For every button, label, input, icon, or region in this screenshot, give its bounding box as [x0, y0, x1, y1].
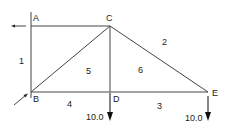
member-label-5: 5	[86, 66, 91, 76]
node-label-b: B	[33, 94, 39, 104]
node-label-d: D	[113, 94, 120, 104]
reaction-arrow-b-icon	[14, 94, 28, 106]
member-label-4: 4	[67, 99, 72, 109]
reaction-arrow-a-icon	[11, 25, 26, 28]
member-2-line	[110, 26, 208, 92]
load-arrow-e-icon	[205, 96, 211, 121]
member-label-2: 2	[162, 37, 167, 47]
member-label-3: 3	[157, 101, 162, 111]
truss-diagram: A B C D E 1 2 3 4 5 6 10.0 10.0	[0, 0, 230, 132]
member-label-6: 6	[138, 65, 143, 75]
node-label-a: A	[33, 13, 39, 23]
member-5-line	[31, 26, 110, 92]
node-label-c: C	[106, 13, 113, 23]
member-label-1: 1	[19, 56, 24, 66]
node-label-e: E	[212, 88, 218, 98]
load-value-e: 10.0	[185, 113, 203, 123]
load-value-d: 10.0	[86, 112, 104, 122]
